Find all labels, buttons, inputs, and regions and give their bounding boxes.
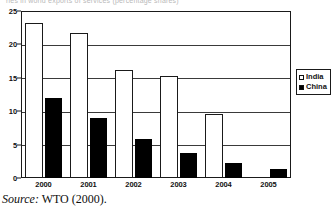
y-axis-tick-label: 25 [9,7,17,16]
x-axis-tick-label: 2000 [21,180,66,189]
legend-item-india: India [299,72,327,82]
bar-china-2004 [225,163,243,178]
bar-group [21,11,66,178]
bar-group [201,11,246,178]
filled-square-icon [299,85,304,90]
legend-label-india: India [306,72,324,82]
bar-group [156,11,201,178]
y-axis-tick-label: 10 [9,107,17,116]
legend-item-china: China [299,82,327,92]
bar-group [246,11,291,178]
bar-india-2004 [205,114,223,178]
x-axis-tick-label: 2002 [111,180,156,189]
bar-china-2000 [45,98,63,178]
x-axis-tick-label: 2004 [201,180,246,189]
bar-china-2005 [270,169,288,178]
bar-india-2000 [25,23,43,178]
cut-off-title-remnant: ries in world exports of services (perce… [0,0,329,7]
source-caption: Source: WTO (2000). [2,192,107,207]
bar-india-2003 [160,76,178,178]
x-axis-tick-label: 2001 [66,180,111,189]
y-axis: 0510152025 [0,0,21,189]
x-axis-tick-label: 2003 [156,180,201,189]
bar-group [66,11,111,178]
bar-india-2002 [115,70,133,178]
legend-label-china: China [306,82,327,92]
bar-group [111,11,156,178]
source-text: WTO (2000). [42,192,107,206]
bar-india-2001 [70,33,88,178]
x-axis-labels: 200020012002200320042005 [21,180,291,192]
bar-china-2001 [90,118,108,178]
hollow-square-icon [299,75,304,80]
y-axis-tick-label: 20 [9,40,17,49]
bar-series-layer [21,11,291,178]
x-axis-tick-label: 2005 [246,180,291,189]
bar-china-2003 [180,153,198,178]
source-label: Source: [2,192,39,206]
title-remnant-text: ries in world exports of services (perce… [6,0,179,4]
chart-legend: India China [296,69,331,95]
y-axis-tick-label: 15 [9,73,17,82]
bar-china-2002 [135,139,153,178]
